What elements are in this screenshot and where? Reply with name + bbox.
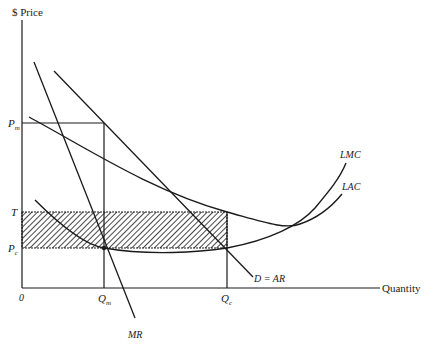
demand-label: D = AR	[253, 273, 285, 284]
x-axis-label: Quantity	[382, 282, 421, 294]
qc-label: Qc	[221, 292, 233, 307]
lac-curve	[29, 117, 342, 226]
lmc-label: LMC	[339, 149, 361, 160]
t-label: T	[11, 206, 18, 218]
intersection-point	[102, 246, 106, 250]
mr-curve	[34, 62, 135, 318]
y-axis-label: $ Price	[12, 6, 43, 18]
origin-label: 0	[19, 292, 24, 303]
qm-label: Qm	[98, 292, 111, 307]
economics-diagram: $ Price Quantity 0 Pm T Pc Qm Qc LMC LAC…	[0, 0, 435, 345]
pc-label: Pc	[7, 242, 19, 257]
lac-label: LAC	[341, 181, 361, 192]
pm-label: Pm	[7, 117, 20, 132]
mr-label: MR	[127, 329, 142, 340]
